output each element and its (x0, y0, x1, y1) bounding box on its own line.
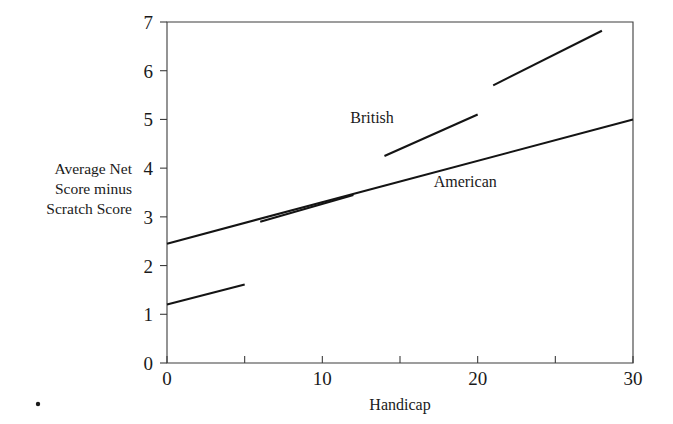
series-line-1 (384, 115, 477, 156)
y-axis-title: Average NetScore minusScratch Score (46, 160, 132, 217)
x-axis-title-text: Handicap (369, 396, 430, 414)
axis-ticks (160, 22, 633, 363)
y-tick-label-7: 7 (144, 12, 154, 33)
y-tick-labels: 01234567 (144, 12, 154, 374)
data-series-lines (167, 31, 633, 305)
golf-handicap-chart: 0102030 01234567 AmericanBritish Handica… (0, 0, 673, 424)
x-tick-label-10: 10 (313, 368, 332, 389)
y-axis-title-line-1: Score minus (55, 180, 132, 197)
y-tick-label-2: 2 (144, 256, 154, 277)
y-tick-label-4: 4 (144, 158, 154, 179)
y-tick-label-3: 3 (144, 207, 154, 228)
series-line-4 (260, 195, 353, 222)
plot-frame (167, 22, 633, 363)
y-tick-label-6: 6 (144, 61, 154, 82)
x-axis-title: Handicap (369, 396, 430, 414)
chart-container: 0102030 01234567 AmericanBritish Handica… (0, 0, 673, 424)
y-axis-title-line-2: Scratch Score (46, 200, 132, 217)
series-line-0 (167, 119, 633, 243)
stray-marks (36, 402, 40, 406)
y-tick-label-1: 1 (144, 304, 154, 325)
series-label-american: American (434, 173, 497, 190)
y-tick-label-5: 5 (144, 109, 154, 130)
plot-border (167, 22, 633, 363)
series-annotations: AmericanBritish (350, 109, 497, 189)
series-line-2 (493, 31, 602, 86)
x-tick-label-0: 0 (162, 368, 172, 389)
x-tick-label-30: 30 (624, 368, 643, 389)
y-axis-title-line-0: Average Net (54, 160, 132, 177)
x-tick-label-20: 20 (468, 368, 487, 389)
series-line-3 (167, 285, 245, 305)
y-tick-label-0: 0 (144, 353, 154, 374)
series-label-british: British (350, 109, 394, 126)
corner-dot (36, 402, 40, 406)
x-tick-labels: 0102030 (162, 368, 642, 389)
